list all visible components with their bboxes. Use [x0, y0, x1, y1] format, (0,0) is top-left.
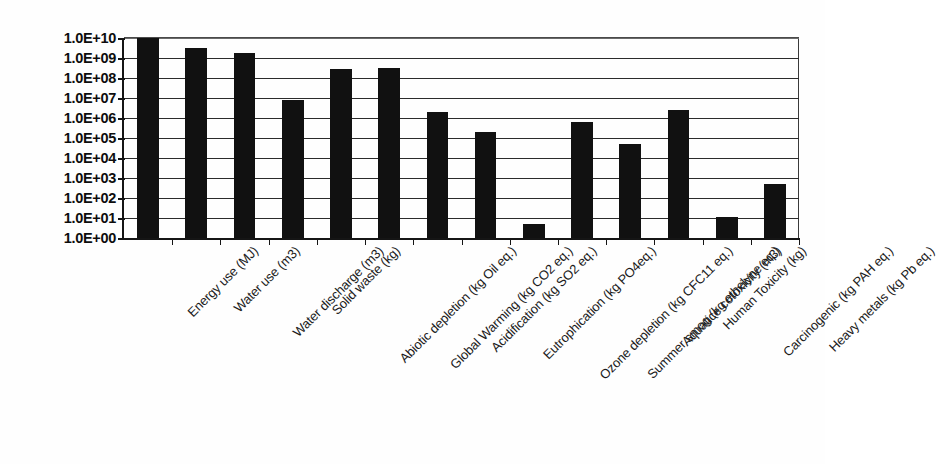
x-axis-tick-mark [606, 238, 607, 245]
y-axis-tick-label: 1.0E+06 [12, 111, 116, 126]
bar [185, 48, 207, 238]
y-axis-tick-label: 1.0E+04 [12, 151, 116, 166]
bar [330, 69, 352, 238]
x-axis-tick-mark [510, 238, 511, 245]
bar [137, 38, 159, 238]
x-axis-category-label-group: Energy use (MJ)Water use (m3)Water disch… [122, 244, 812, 459]
x-axis-tick-mark [317, 238, 318, 245]
y-axis-tick-label: 1.0E+07 [12, 91, 116, 106]
x-axis-category-label: Aquatice cotoxicity (m3) [680, 244, 785, 349]
y-axis-tick-label: 1.0E+00 [12, 231, 116, 246]
y-axis-tick-mark [118, 238, 125, 240]
bar [619, 144, 641, 238]
x-axis-tick-mark [365, 238, 366, 245]
y-axis-tick-mark [118, 78, 125, 80]
x-axis-tick-mark [799, 238, 800, 245]
gridline [124, 158, 799, 159]
y-axis-tick-label: 1.0E+03 [12, 171, 116, 186]
x-axis-tick-mark [703, 238, 704, 245]
gridline [124, 38, 799, 39]
gridline [124, 198, 799, 199]
bar [427, 112, 449, 238]
y-axis-tick-mark [118, 38, 125, 40]
x-axis-tick-mark [751, 238, 752, 245]
bar [234, 53, 256, 238]
y-axis-tick-mark [118, 118, 125, 120]
gridline [124, 78, 799, 79]
x-axis-tick-mark [558, 238, 559, 245]
bar [378, 68, 400, 238]
y-axis-tick-label: 1.0E+05 [12, 131, 116, 146]
y-axis-tick-mark [118, 218, 125, 220]
x-axis-tick-mark [172, 238, 173, 245]
x-axis-category-label: Water discharge (m3) [290, 244, 386, 340]
gridline [124, 98, 799, 99]
x-axis-tick-mark [220, 238, 221, 245]
y-axis-tick-label: 1.0E+01 [12, 211, 116, 226]
y-axis-tick-mark [118, 58, 125, 60]
bar [475, 132, 497, 238]
y-axis-tick-mark [118, 178, 125, 180]
x-axis-tick-mark [654, 238, 655, 245]
y-axis-tick-mark [118, 158, 125, 160]
gridline [124, 58, 799, 59]
plot-area [122, 38, 799, 240]
y-axis-tick-label: 1.0E+09 [12, 51, 116, 66]
gridline [124, 118, 799, 119]
y-axis-tick-label-group: 1.0E+101.0E+091.0E+081.0E+071.0E+061.0E+… [12, 28, 116, 248]
y-axis-tick-mark [118, 138, 125, 140]
y-axis-tick-label: 1.0E+02 [12, 191, 116, 206]
bar [716, 217, 738, 238]
y-axis-tick-label: 1.0E+10 [12, 31, 116, 46]
y-axis-tick-label: 1.0E+08 [12, 71, 116, 86]
bar [571, 122, 593, 238]
y-axis-tick-mark [118, 198, 125, 200]
bar [282, 100, 304, 238]
x-axis-category-label: Energy use (MJ) [185, 244, 260, 319]
gridline [124, 178, 799, 179]
gridline [124, 138, 799, 139]
bar [668, 110, 690, 238]
x-axis-tick-mark [413, 238, 414, 245]
gridline [124, 218, 799, 219]
x-axis-tick-mark [269, 238, 270, 245]
y-axis-tick-mark [118, 98, 125, 100]
bar [764, 184, 786, 238]
bar [523, 224, 545, 238]
x-axis-tick-mark [462, 238, 463, 245]
